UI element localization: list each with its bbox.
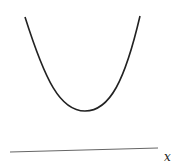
x-axis-line: [10, 148, 158, 152]
diagram-canvas: x: [0, 0, 178, 167]
parabola-curve: [25, 16, 140, 111]
x-axis-label: x: [164, 150, 171, 164]
